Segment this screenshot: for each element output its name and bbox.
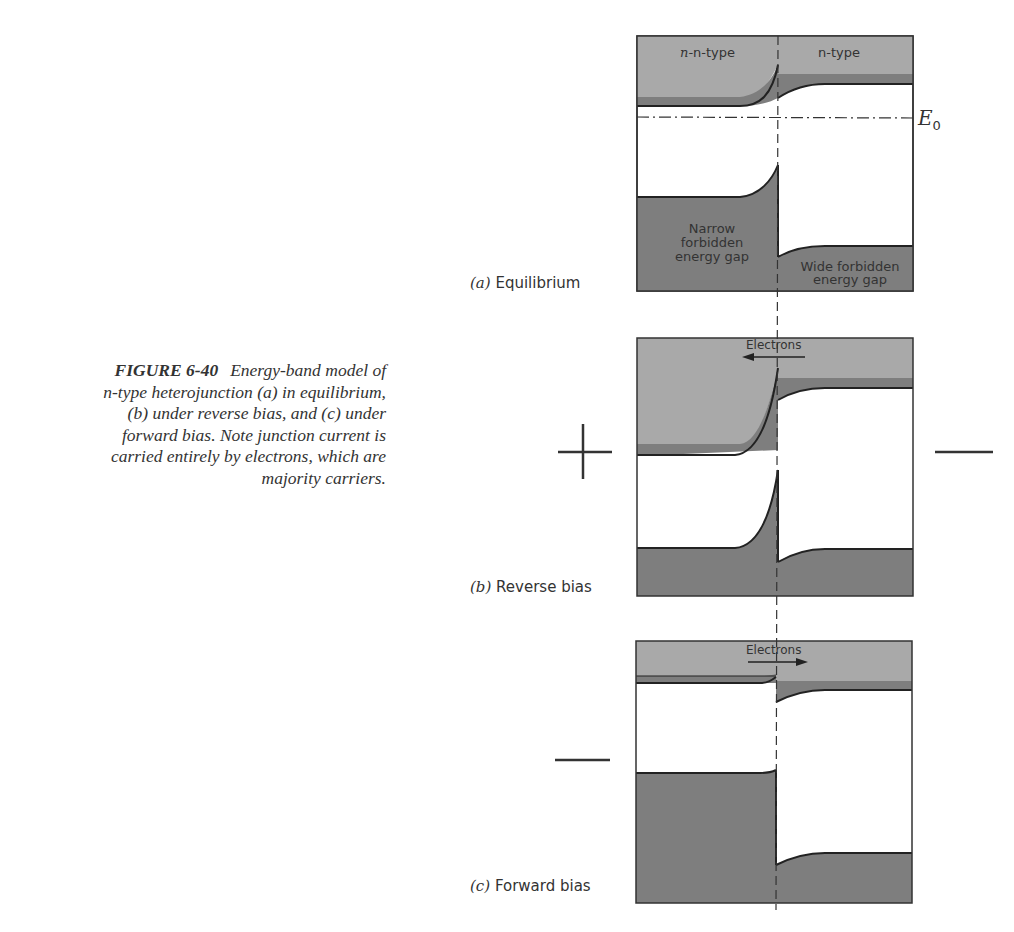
panel-c-graphic <box>636 641 912 903</box>
panel-a-caption: (a) Equilibrium <box>470 274 580 292</box>
right-region-label: n-type <box>818 45 860 60</box>
electrons-arrow-label-b: Electrons <box>746 338 801 352</box>
narrow-gap-label: Narrow forbidden energy gap <box>672 222 752 264</box>
plus-sign-b <box>558 424 612 479</box>
panel-b-caption: (b) Reverse bias <box>470 578 592 596</box>
panel-b-graphic <box>637 338 913 596</box>
left-region-label: n-n-type <box>680 45 735 60</box>
wide-gap-label: Wide forbidden energy gap <box>795 260 905 286</box>
panel-c-caption: (c) Forward bias <box>470 877 591 895</box>
fermi-level-label: E0 <box>918 106 941 133</box>
energy-band-diagram <box>0 0 1014 932</box>
electrons-arrow-label-c: Electrons <box>746 643 801 657</box>
